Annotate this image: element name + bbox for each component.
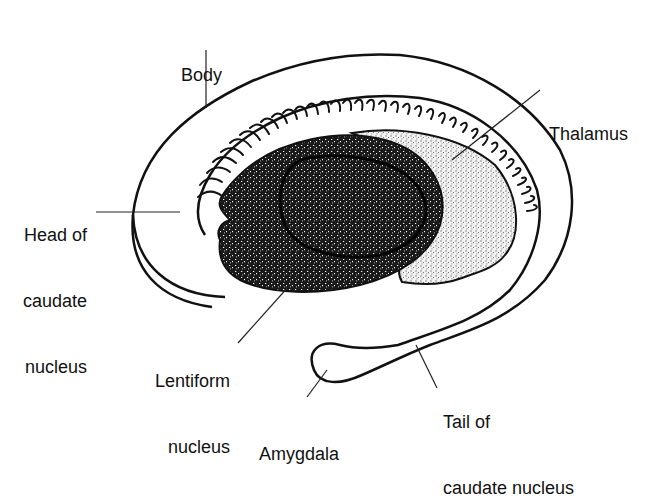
label-amygdala-line-1: Amygdala <box>259 443 339 465</box>
label-head-line-2: caudate <box>12 290 87 312</box>
label-lentiform-line-2: nucleus <box>140 436 230 458</box>
label-thalamus: Thalamus <box>549 79 628 167</box>
label-head-line-1: Head of <box>12 224 87 246</box>
label-tail-line-2: caudate nucleus <box>443 477 574 498</box>
label-body-line-1: Body <box>181 64 222 86</box>
label-body: Body <box>181 20 222 108</box>
label-head-of-caudate: Head of caudate nucleus <box>12 180 87 400</box>
label-lentiform-line-1: Lentiform <box>140 370 230 392</box>
label-tail-of-caudate: Tail of caudate nucleus <box>443 367 574 498</box>
label-amygdala: Amygdala <box>259 399 339 487</box>
label-head-line-3: nucleus <box>12 356 87 378</box>
caudate-head-bottom <box>133 215 225 297</box>
leader-line-tail <box>416 345 437 388</box>
label-tail-line-1: Tail of <box>443 411 574 433</box>
label-lentiform-nucleus: Lentiform nucleus <box>140 326 230 480</box>
label-thalamus-line-1: Thalamus <box>549 123 628 145</box>
